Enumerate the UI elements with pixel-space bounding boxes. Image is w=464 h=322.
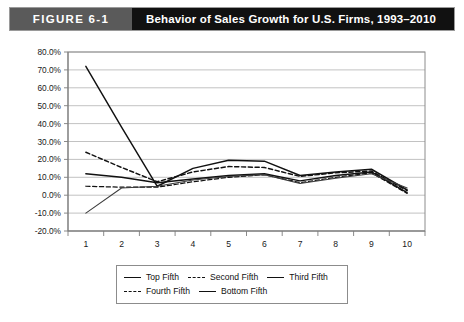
legend-item-label: Bottom Fifth (221, 286, 267, 296)
legend-item-label: Top Fifth (146, 272, 179, 282)
figure-title: Behavior of Sales Growth for U.S. Firms,… (132, 8, 454, 30)
y-axis-tick-label: 40.0% (37, 119, 61, 129)
figure-number-label: FIGURE 6-1 (10, 8, 132, 30)
y-axis-tick-label: 10.0% (37, 172, 61, 182)
legend-item-third-fifth[interactable]: Third Fifth (267, 272, 328, 282)
chart-legend: Top FifthSecond FifthThird FifthFourth F… (116, 265, 348, 304)
figure-container: FIGURE 6-1 Behavior of Sales Growth for … (0, 0, 464, 322)
x-axis-tick-label: 5 (226, 239, 231, 249)
line-chart: 80.0%70.0%60.0%50.0%40.0%30.0%20.0%10.0%… (0, 38, 464, 270)
legend-swatch-icon (267, 277, 284, 278)
legend-swatch-icon (124, 291, 141, 292)
legend-item-second-fifth[interactable]: Second Fifth (188, 272, 258, 282)
y-axis-tick-labels: 80.0%70.0%60.0%50.0%40.0%30.0%20.0%10.0%… (35, 47, 62, 236)
x-axis-tick-labels: 12345678910 (83, 239, 412, 249)
x-axis-tick-label: 8 (333, 239, 338, 249)
y-axis-tick-label: 60.0% (37, 83, 61, 93)
legend-row: Top FifthSecond FifthThird Fifth (124, 270, 340, 284)
y-axis-tick-label: 20.0% (37, 154, 61, 164)
legend-item-label: Second Fifth (210, 272, 258, 282)
x-axis-tick-label: 6 (262, 239, 267, 249)
legend-item-bottom-fifth[interactable]: Bottom Fifth (199, 286, 267, 296)
legend-row: Fourth FifthBottom Fifth (124, 284, 340, 298)
x-axis-tick-label: 9 (369, 239, 374, 249)
series-line-second-fifth (86, 152, 407, 190)
legend-swatch-icon (188, 277, 205, 278)
y-axis-tick-label: 50.0% (37, 101, 61, 111)
y-axis-tick-label: 70.0% (37, 65, 61, 75)
x-axis-tick-label: 10 (402, 239, 412, 249)
x-axis-tick-label: 4 (191, 239, 196, 249)
chart-series-lines (86, 66, 407, 213)
y-axis-tick-label: -20.0% (35, 226, 62, 236)
chart-gridlines (68, 52, 425, 231)
legend-swatch-icon (124, 277, 141, 278)
y-axis-tick-label: 30.0% (37, 137, 61, 147)
x-axis-tick-label: 2 (119, 239, 124, 249)
chart-axes (64, 52, 425, 236)
x-axis-tick-label: 1 (83, 239, 88, 249)
legend-item-fourth-fifth[interactable]: Fourth Fifth (124, 286, 190, 296)
y-axis-tick-label: 80.0% (37, 47, 61, 57)
x-axis-tick-label: 3 (155, 239, 160, 249)
legend-item-label: Third Fifth (289, 272, 328, 282)
legend-item-label: Fourth Fifth (146, 286, 190, 296)
x-axis-tick-label: 7 (298, 239, 303, 249)
y-axis-tick-label: -10.0% (35, 208, 62, 218)
figure-header: FIGURE 6-1 Behavior of Sales Growth for … (9, 7, 455, 31)
y-axis-tick-label: 0.0% (42, 190, 62, 200)
legend-item-top-fifth[interactable]: Top Fifth (124, 272, 179, 282)
legend-swatch-icon (199, 291, 216, 292)
